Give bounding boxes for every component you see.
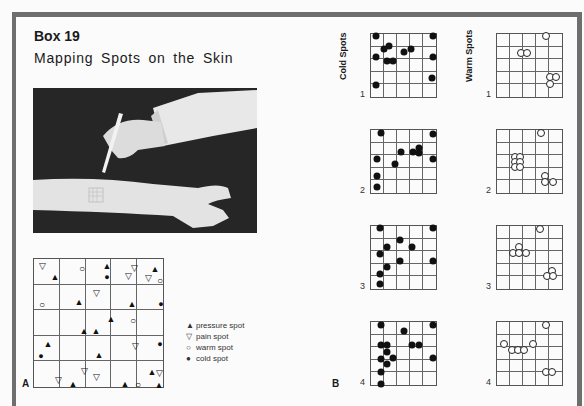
box-title: Box 19 <box>34 28 80 44</box>
pressure-spot-icon: ▲ <box>80 327 89 336</box>
grid-line <box>371 142 436 143</box>
cold-spot-icon <box>378 369 385 376</box>
pain-spot-icon: ▽ <box>144 274 153 283</box>
grid-line <box>396 322 397 385</box>
grid-line <box>371 167 436 168</box>
warm-spots-heading: Warm Spots <box>464 30 474 82</box>
cold-spot-icon <box>378 322 385 329</box>
grid-line <box>34 284 163 285</box>
pain-spot-icon: ▽ <box>131 342 140 351</box>
grid-line <box>422 322 423 385</box>
pressure-spot-icon: ▲ <box>75 298 84 307</box>
grid-line <box>509 34 510 97</box>
grid-line <box>497 154 562 155</box>
grid-line <box>535 130 536 193</box>
cold-spot-grid-2 <box>370 129 437 194</box>
cold-spot-icon <box>374 184 381 191</box>
cold-spot-icon <box>390 58 397 65</box>
grid-line <box>34 309 163 310</box>
warm-spot-icon <box>522 249 530 257</box>
cold-spot-icon: ● <box>156 340 165 349</box>
pain-spot-icon: ▽ <box>124 272 133 281</box>
legend-label: pain spot <box>196 332 228 341</box>
warm-spot-icon <box>546 80 554 88</box>
grid-line <box>497 58 562 59</box>
cold-spot-icon <box>392 161 399 168</box>
warm-spot-icon <box>516 163 524 171</box>
grid-line <box>497 359 562 360</box>
grid-line <box>34 360 163 361</box>
cold-spot-icon <box>384 349 391 356</box>
cold-spot-icon <box>377 251 384 258</box>
pressure-spot-icon: ▲ <box>155 381 164 390</box>
warm-spot-icon <box>549 178 557 186</box>
grid-line <box>548 322 549 385</box>
cold-spot-icon <box>429 75 436 82</box>
grid-line <box>497 46 562 47</box>
cold-spot-icon: ● <box>37 352 46 361</box>
frame-left <box>12 12 16 406</box>
pain-spot-icon: ▽ <box>92 373 101 382</box>
cold-spot-icon <box>378 381 385 388</box>
cold-spot-icon <box>430 54 437 61</box>
warm-spot-icon: ○ <box>129 316 138 325</box>
cold-spot-icon <box>430 225 437 232</box>
cold-spot-icon <box>397 258 404 265</box>
cold-spot-icon <box>374 173 381 180</box>
pain-spot-icon: ▽ <box>92 289 101 298</box>
cold-spot-icon <box>408 46 415 53</box>
cold-spot-icon <box>397 237 404 244</box>
panel-label-b: B <box>332 378 339 389</box>
grid-line <box>497 167 562 168</box>
warm-spot-icon <box>552 73 560 81</box>
box-subtitle: Mapping Spots on the Skin <box>34 50 233 66</box>
warm-spot-icon <box>529 340 537 348</box>
warm-spot-icon <box>520 346 528 354</box>
legend-item-cold: ●cold spot <box>186 353 244 364</box>
grid-line <box>371 58 436 59</box>
grid-line <box>422 130 423 193</box>
pain-spot-icon: ▽ <box>54 376 63 385</box>
warm-spot-icon <box>548 368 556 376</box>
legend-label: warm spot <box>196 343 233 352</box>
warm-spot-icon <box>542 321 550 329</box>
pain-spot-icon: ▽ <box>186 331 196 342</box>
cold-spot-icon <box>430 131 437 138</box>
grid-line <box>535 226 536 289</box>
warm-spot-icon: ○ <box>156 276 165 285</box>
cold-spot-icon <box>430 355 437 362</box>
pain-spot-icon: ▽ <box>155 369 164 378</box>
warm-spot-icon: ○ <box>134 380 143 389</box>
grid-line <box>422 226 423 289</box>
cold-spot-icon <box>401 328 408 335</box>
cold-spot-icon <box>409 342 416 349</box>
grid-line <box>409 130 410 193</box>
cold-spot-icon <box>416 150 423 157</box>
warm-spot-grid-4 <box>496 321 563 386</box>
warm-spot-icon <box>537 129 545 137</box>
grid-line <box>396 34 397 97</box>
grid-line <box>409 322 410 385</box>
cold-spot-icon <box>384 264 391 271</box>
grid-line <box>497 142 562 143</box>
panel-label-a: A <box>22 378 29 389</box>
pressure-spot-icon: ▲ <box>95 351 104 360</box>
grid-line <box>409 34 410 97</box>
trial-number: 1 <box>486 89 491 99</box>
warm-spot-icon <box>536 225 544 233</box>
warm-spot-icon <box>541 178 549 186</box>
grid-line <box>497 263 562 264</box>
legend-label: pressure spot <box>196 321 244 330</box>
cold-spot-icon <box>416 342 423 349</box>
legend-item-pressure: ▲pressure spot <box>186 320 244 331</box>
grid-line <box>497 71 562 72</box>
skin-spot-grid: ▽▲○▲●▽▽▲▽○○▲▽▲●▲○▲▲▲●▽▲●▽▽▲▽▲○▲▽▲ <box>33 258 164 388</box>
grid-line <box>371 71 436 72</box>
grid-line <box>535 34 536 97</box>
cold-spot-icon: ● <box>186 353 196 364</box>
pressure-spot-icon: ▲ <box>151 265 160 274</box>
pressure-spot-icon: ▲ <box>186 320 196 331</box>
cold-spot-icon <box>401 49 408 56</box>
grid-line <box>383 34 384 97</box>
grid-line <box>497 238 562 239</box>
